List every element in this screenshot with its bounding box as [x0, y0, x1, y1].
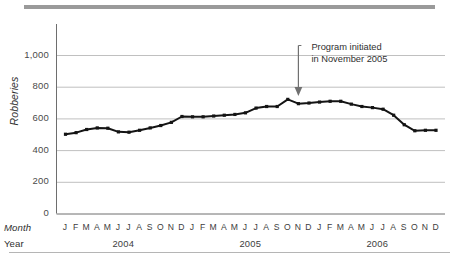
data-point-marker	[191, 115, 194, 118]
figure-container: Robberies 02004006008001,000 Program ini…	[0, 0, 459, 269]
data-point-marker	[254, 107, 257, 110]
month-tick-35: D	[429, 222, 443, 232]
data-point-marker	[424, 129, 427, 132]
data-point-marker	[350, 103, 353, 106]
data-point-marker	[64, 133, 67, 136]
data-point-marker	[149, 126, 152, 129]
data-point-marker	[117, 130, 120, 133]
year-tick-row: 200420052006	[56, 238, 446, 251]
data-point-marker	[403, 123, 406, 126]
data-point-marker	[286, 98, 289, 101]
data-point-marker	[180, 115, 183, 118]
data-point-marker	[318, 100, 321, 103]
data-point-marker	[85, 128, 88, 131]
month-row-label: Month	[4, 222, 31, 233]
data-point-marker	[74, 131, 77, 134]
data-point-marker	[170, 121, 173, 124]
data-point-marker	[159, 124, 162, 127]
data-point-marker	[297, 102, 300, 105]
data-point-marker	[106, 127, 109, 130]
year-label-2006: 2006	[347, 238, 407, 249]
month-tick-row: JFMAMJJASONDJFMAMJJASONDJFMAMJJASOND	[56, 222, 446, 235]
data-point-marker	[371, 106, 374, 109]
data-point-marker	[413, 129, 416, 132]
bottom-divider-rule	[9, 252, 450, 253]
data-point-marker	[244, 111, 247, 114]
data-point-marker	[434, 129, 437, 132]
program-initiated-annotation: Program initiated in November 2005	[311, 41, 387, 66]
y-gridlines	[57, 56, 446, 215]
data-point-marker	[339, 100, 342, 103]
year-label-2004: 2004	[93, 238, 153, 249]
data-point-marker	[138, 129, 141, 132]
data-point-marker	[329, 100, 332, 103]
data-point-marker	[212, 114, 215, 117]
year-row-label: Year	[4, 238, 24, 249]
data-point-marker	[265, 105, 268, 108]
annotation-line-1: Program initiated	[311, 41, 387, 53]
data-point-marker	[360, 105, 363, 108]
data-point-marker	[381, 108, 384, 111]
data-point-marker	[223, 114, 226, 117]
robberies-data-markers	[64, 98, 438, 136]
annotation-line-2: in November 2005	[311, 53, 387, 65]
year-label-2005: 2005	[220, 238, 280, 249]
data-point-marker	[233, 113, 236, 116]
data-point-marker	[202, 115, 205, 118]
robberies-line-series	[66, 99, 437, 134]
data-point-marker	[392, 114, 395, 117]
data-point-marker	[276, 105, 279, 108]
callout-arrow-icon	[295, 46, 303, 97]
data-point-marker	[307, 101, 310, 104]
data-point-marker	[127, 131, 130, 134]
data-point-marker	[96, 126, 99, 129]
